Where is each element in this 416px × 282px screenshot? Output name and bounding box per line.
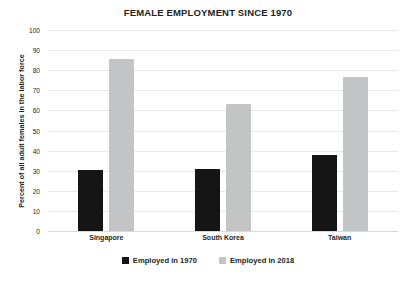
y-axis-tick-label: 20 <box>10 188 40 195</box>
y-axis-tick-label: 50 <box>10 128 40 135</box>
bar-south-korea-employed-in-2018 <box>226 104 251 231</box>
bar-taiwan-employed-in-1970 <box>312 155 337 231</box>
gridline <box>48 50 398 51</box>
chart-legend: Employed in 1970Employed in 2018 <box>0 256 416 265</box>
x-axis-label-singapore: Singapore <box>89 234 123 241</box>
legend-item[interactable]: Employed in 1970 <box>122 256 197 265</box>
chart-title: FEMALE EMPLOYMENT SINCE 1970 <box>0 7 416 18</box>
x-axis-label-taiwan: Taiwan <box>328 234 351 241</box>
y-axis-tick-label: 10 <box>10 208 40 215</box>
x-axis-label-south-korea: South Korea <box>202 234 244 241</box>
y-axis-tick-label: 40 <box>10 148 40 155</box>
legend-swatch-icon <box>122 257 129 264</box>
bar-singapore-employed-in-2018 <box>109 59 134 231</box>
gridline <box>48 30 398 31</box>
bar-taiwan-employed-in-2018 <box>343 77 368 231</box>
plot-area <box>48 30 398 231</box>
y-axis-tick-label: 80 <box>10 67 40 74</box>
y-axis-tick-label: 90 <box>10 47 40 54</box>
bar-chart: FEMALE EMPLOYMENT SINCE 1970 Percent of … <box>0 0 416 282</box>
y-axis-tick-label: 30 <box>10 168 40 175</box>
legend-swatch-icon <box>219 257 226 264</box>
bar-singapore-employed-in-1970 <box>78 170 103 231</box>
gridline <box>48 231 398 232</box>
legend-label: Employed in 2018 <box>230 256 294 265</box>
bar-south-korea-employed-in-1970 <box>195 169 220 231</box>
y-axis-ticks: 0102030405060708090100 <box>10 30 44 231</box>
y-axis-tick-label: 0 <box>10 228 40 235</box>
gridline <box>48 70 398 71</box>
y-axis-tick-label: 60 <box>10 107 40 114</box>
legend-label: Employed in 1970 <box>133 256 197 265</box>
legend-item[interactable]: Employed in 2018 <box>219 256 294 265</box>
y-axis-tick-label: 70 <box>10 87 40 94</box>
y-axis-tick-label: 100 <box>10 27 40 34</box>
